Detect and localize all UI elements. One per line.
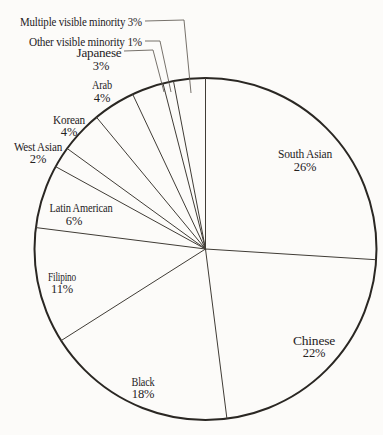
slice-value-west-asian: 2% [30,152,46,166]
slice-value-arab: 4% [94,91,110,105]
slice-value-japanese: 3% [93,59,109,73]
slice-label-multiple-visible-minority: Multiple visible minority 3% [20,15,142,29]
pie-chart-svg: South Asian26%Chinese22%Black18%Filipino… [0,0,383,435]
slice-value-chinese: 22% [303,346,325,360]
slice-label-south-asian: South Asian [278,147,333,161]
pie-chart-figure: South Asian26%Chinese22%Black18%Filipino… [0,0,383,435]
slice-label-arab: Arab [92,78,112,92]
slice-label-other-visible-minority: Other visible minority 1% [29,35,142,49]
slice-value-korean: 4% [61,125,77,139]
slice-value-black: 18% [132,387,154,401]
slice-label-latin-american: Latin American [50,201,114,215]
page: South Asian26%Chinese22%Black18%Filipino… [0,0,383,435]
slice-value-latin-american: 6% [66,214,82,228]
slice-value-filipino: 11% [51,282,73,296]
slice-value-south-asian: 26% [294,160,316,174]
